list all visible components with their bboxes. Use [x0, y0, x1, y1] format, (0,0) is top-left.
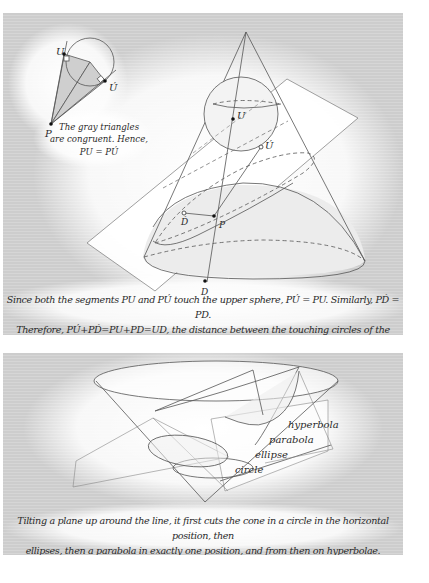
right-angle-mark-u — [64, 56, 69, 61]
point-u-prime — [259, 145, 263, 149]
bottom-caption: Tilting a plane up around the line, it f… — [3, 513, 403, 555]
top-caption-line-2: Therefore, PÚ+PD́=PU+PD=UD, the distanc… — [3, 322, 403, 335]
dandelin-spheres-diagram: U Ú P The gray triangles are congruent.… — [3, 13, 403, 335]
label-d-prime: D́ — [180, 216, 188, 227]
top-caption-line-1: Since both the segments PU and PÚ touch… — [3, 292, 403, 322]
point-d-prime — [182, 211, 186, 215]
inset-note-line-2: are congruent. Hence, — [50, 134, 148, 144]
bottom-caption-line-2: ellipses, then a parabola in exactly one… — [3, 543, 403, 555]
top-figure-panel: U Ú P The gray triangles are congruent.… — [3, 13, 403, 335]
label-ellipse: ellipse — [255, 449, 288, 460]
label-u-prime: Ú — [265, 140, 274, 151]
point-p — [49, 122, 53, 126]
bottom-figure-panel: hyperbola parabola ellipse circle Tiltin… — [3, 353, 403, 555]
point-u — [231, 117, 235, 121]
inset-note-line-3: PU = PÚ — [79, 146, 119, 157]
label-u: U — [237, 110, 246, 121]
inset-label-u-prime: Ú — [109, 82, 118, 93]
point-p — [212, 214, 216, 218]
label-p: P — [218, 220, 226, 230]
label-circle: circle — [235, 464, 263, 475]
point-u-prime — [103, 79, 107, 83]
label-parabola: parabola — [269, 434, 314, 445]
top-caption: Since both the segments PU and PÚ touch… — [3, 292, 403, 335]
point-d — [203, 279, 207, 283]
label-hyperbola: hyperbola — [288, 419, 339, 430]
inset-label-u: U — [56, 46, 65, 57]
bottom-caption-line-1: Tilting a plane up around the line, it f… — [3, 513, 403, 543]
inset-note-line-1: The gray triangles — [59, 122, 140, 132]
cone-top-rim — [94, 361, 338, 401]
